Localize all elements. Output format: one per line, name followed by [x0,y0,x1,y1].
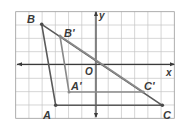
label-a-prime: A' [70,80,82,92]
label-c: C [163,109,172,121]
label-c-prime: C' [144,80,155,92]
point-b-prime [59,35,62,38]
coordinate-plane-diagram: B B' A A' C C' O x y [0,0,185,127]
grid [16,12,175,119]
y-axis-down-arrow-icon [94,113,98,118]
x-axis-left-arrow-icon [17,62,22,66]
label-b-prime: B' [64,27,75,39]
x-axis-label: x [165,67,172,78]
label-b: B [27,13,35,25]
point-b [40,23,44,27]
y-axis-label: y [98,10,105,21]
point-a [54,104,58,108]
origin-label: O [85,66,93,77]
point-c [161,104,165,108]
label-a: A [42,109,51,121]
